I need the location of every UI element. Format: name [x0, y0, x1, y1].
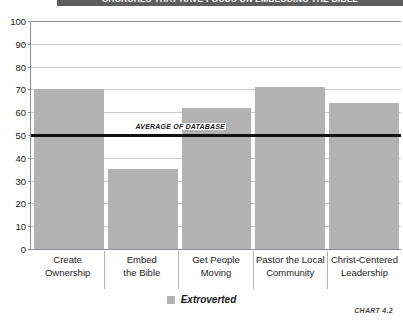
average-reference-line: [31, 134, 401, 137]
legend-swatch-extroverted: [167, 296, 175, 304]
average-reference-label: AVERAGE OF DATABASE: [135, 123, 226, 130]
chart-caption: CHART 4.2: [354, 307, 393, 314]
category-label-line: Christ-Centered: [328, 254, 401, 267]
ytick-mark-20: [28, 203, 31, 204]
ytick-label-80: 80: [15, 61, 26, 72]
category-label-4: Pastor the LocalCommunity: [254, 251, 328, 289]
chart-title-banner: CHURCHES THAT HAVE FOCUS ON EMBEDDING TH…: [57, 0, 403, 6]
bar[interactable]: [108, 169, 178, 249]
chart-legend: Extroverted: [0, 294, 403, 305]
ytick-mark-30: [28, 181, 31, 182]
ytick-mark-70: [28, 89, 31, 90]
category-label-line: Create: [31, 254, 104, 267]
category-label-line: Leadership: [328, 267, 401, 280]
bar[interactable]: [329, 103, 399, 249]
ytick-label-50: 50: [15, 130, 26, 141]
ytick-label-90: 90: [15, 38, 26, 49]
ytick-label-10: 10: [15, 221, 26, 232]
chart-plot-area: 0102030405060708090100 AVERAGE OF DATABA…: [30, 21, 401, 250]
ytick-mark-80: [28, 67, 31, 68]
ytick-label-100: 100: [10, 16, 26, 27]
ytick-mark-0: [28, 249, 31, 250]
category-label-5: Christ-CenteredLeadership: [328, 251, 401, 289]
category-label-line: Embed: [105, 254, 178, 267]
ytick-mark-90: [28, 44, 31, 45]
chart-title-text: CHURCHES THAT HAVE FOCUS ON EMBEDDING TH…: [57, 0, 403, 5]
category-axis: CreateOwnershipEmbedthe BibleGet PeopleM…: [31, 251, 401, 289]
ytick-mark-100: [28, 21, 31, 22]
legend-label-extroverted: Extroverted: [181, 294, 237, 305]
ytick-label-70: 70: [15, 84, 26, 95]
category-label-1: CreateOwnership: [31, 251, 105, 289]
category-label-line: Get People: [179, 254, 252, 267]
ytick-label-30: 30: [15, 175, 26, 186]
ytick-label-40: 40: [15, 152, 26, 163]
ytick-label-0: 0: [21, 244, 26, 255]
ytick-label-20: 20: [15, 198, 26, 209]
category-label-3: Get PeopleMoving: [179, 251, 253, 289]
category-label-line: Moving: [179, 267, 252, 280]
category-label-line: Community: [254, 267, 327, 280]
plot-canvas: 0102030405060708090100 AVERAGE OF DATABA…: [30, 21, 401, 250]
category-label-line: the Bible: [105, 267, 178, 280]
category-label-line: Pastor the Local: [254, 254, 327, 267]
ytick-label-60: 60: [15, 107, 26, 118]
bar[interactable]: [34, 89, 104, 249]
ytick-mark-40: [28, 158, 31, 159]
category-label-line: Ownership: [31, 267, 104, 280]
category-label-2: Embedthe Bible: [105, 251, 179, 289]
bar[interactable]: [255, 87, 325, 249]
ytick-mark-60: [28, 112, 31, 113]
ytick-mark-10: [28, 226, 31, 227]
